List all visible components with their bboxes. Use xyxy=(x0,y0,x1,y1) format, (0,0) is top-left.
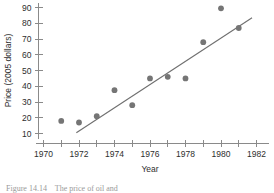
caption-label: Figure 14.14 The price of oil and xyxy=(6,184,118,193)
data-point-1972 xyxy=(76,120,82,126)
figure-caption: Figure 14.14 The price of oil and xyxy=(6,184,118,193)
y-tick-label-70: 70 xyxy=(22,34,32,44)
data-point-1977 xyxy=(165,74,171,80)
y-tick-label-90: 90 xyxy=(22,3,32,13)
y-axis: 102030405060708090 xyxy=(22,3,42,139)
y-tick-label-50: 50 xyxy=(22,66,32,76)
data-point-1976 xyxy=(147,75,153,81)
y-tick-label-60: 60 xyxy=(22,50,32,60)
data-point-1971 xyxy=(58,118,64,124)
y-tick-label-20: 20 xyxy=(22,113,32,123)
x-tick-label-1982: 1982 xyxy=(247,149,266,159)
data-points xyxy=(58,5,241,125)
data-point-1980 xyxy=(218,5,224,11)
x-tick-label-1972: 1972 xyxy=(70,149,89,159)
y-axis-title: Price (2005 dollars) xyxy=(3,33,13,107)
data-point-1978 xyxy=(183,75,189,81)
scatter-plot: 102030405060708090 197019721974197619781… xyxy=(0,0,274,193)
x-tick-label-1978: 1978 xyxy=(176,149,195,159)
x-tick-label-1980: 1980 xyxy=(212,149,231,159)
y-tick-label-80: 80 xyxy=(22,18,32,28)
x-tick-label-1974: 1974 xyxy=(105,149,124,159)
y-tick-label-10: 10 xyxy=(22,129,32,139)
y-tick-label-40: 40 xyxy=(22,81,32,91)
data-point-1973 xyxy=(94,113,100,119)
figure-container: 102030405060708090 197019721974197619781… xyxy=(0,0,274,193)
x-axis: 1970197219741976197819801982 xyxy=(34,140,269,159)
y-tick-label-30: 30 xyxy=(22,97,32,107)
data-point-1975 xyxy=(129,102,135,108)
x-axis-title: Year xyxy=(141,164,158,174)
trend-line xyxy=(76,18,252,133)
x-tick-label-1970: 1970 xyxy=(34,149,53,159)
regression-line xyxy=(76,18,252,133)
data-point-1974 xyxy=(112,87,118,93)
data-point-1979 xyxy=(200,39,206,45)
data-point-1981 xyxy=(236,25,242,31)
x-tick-label-1976: 1976 xyxy=(141,149,160,159)
